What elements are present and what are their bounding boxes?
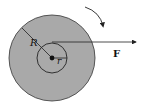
outer-radius-label: R <box>29 37 38 48</box>
center-dot <box>50 56 55 61</box>
inner-radius-label: r <box>57 56 62 66</box>
force-label: F <box>113 48 120 59</box>
wheel-axle-diagram: R r F <box>0 0 143 108</box>
rotation-arrow-icon <box>85 7 103 26</box>
